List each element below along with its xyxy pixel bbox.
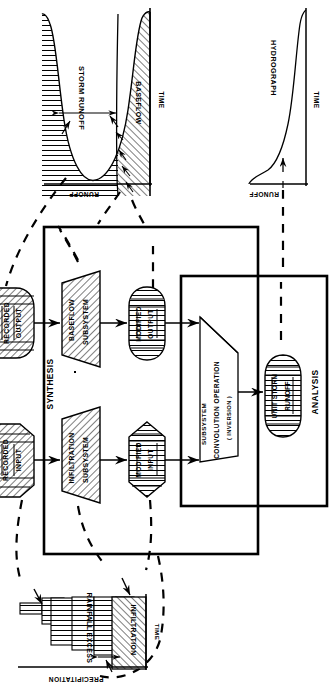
precipitation-hyetograph-chart: RAINFALL EXCESS INFILTRATION TIME PRECIP… [18, 578, 161, 683]
modified-input-label-2: INPUT [147, 449, 154, 471]
node-modified-output[interactable]: MODIFIED OUTPUT [129, 287, 165, 360]
node-modified-input[interactable]: MODIFIED INPUT [129, 422, 165, 497]
modified-input-label-1: MODIFIED [135, 442, 142, 477]
recorded-input-label-2: INPUT [15, 448, 22, 471]
unit-storm-runoff-label-1: UNIT STORM [271, 373, 278, 418]
convolution-label-2: CONVOLUTION OPERATION [213, 361, 220, 459]
convolution-label-3: ( INVERSION ) [226, 396, 232, 440]
infiltration-region-label: INFILTRATION [130, 605, 137, 656]
time-axis-label-bottom: TIME [154, 624, 161, 640]
recorded-output-label-1: RECORDED [3, 302, 10, 344]
node-unit-storm-runoff[interactable]: UNIT STORM RUNOFF [265, 355, 301, 437]
figure-canvas: STORM RUNOFF BASEFLOW TIME RUNOFF HYDROG… [0, 0, 333, 696]
time-axis-label-top-right: TIME [313, 92, 320, 109]
node-convolution-operation[interactable]: SUBSYSTEM CONVOLUTION OPERATION ( INVERS… [200, 317, 238, 462]
modified-output-label-2: OUTPUT [147, 309, 154, 339]
recorded-input-label-1: RECORDED [2, 439, 9, 481]
convolution-label-1: SUBSYSTEM [200, 403, 207, 445]
unit-hydrograph-chart: HYDROGRAPH TIME RUNOFF [249, 8, 320, 198]
baseflow-region-label: BASEFLOW [135, 81, 142, 124]
node-infiltration-subsystem[interactable]: INFILTRATION SUBSYSTEM [62, 407, 100, 503]
precipitation-axis-label: PRECIPITATION [48, 676, 103, 683]
baseflow-subsystem-label-1: BASEFLOW [68, 299, 75, 341]
time-axis-label-top-left: TIME [158, 92, 165, 109]
analysis-box-label: ANALYSIS [310, 370, 320, 415]
modified-output-label-1: MODIFIED [135, 306, 142, 341]
infiltration-subsystem-label-1: INFILTRATION [68, 433, 75, 484]
diagram-svg: STORM RUNOFF BASEFLOW TIME RUNOFF HYDROG… [0, 0, 333, 696]
unit-storm-runoff-label-2: RUNOFF [284, 381, 291, 411]
storm-runoff-baseflow-chart: STORM RUNOFF BASEFLOW TIME RUNOFF [40, 8, 165, 200]
infiltration-subsystem-label-2: SUBSYSTEM [82, 437, 89, 483]
node-recorded-input[interactable]: RECORDED INPUT [0, 424, 34, 497]
node-recorded-output[interactable]: RECORDED OUTPUT [0, 288, 34, 358]
runoff-axis-label-top-left: RUNOFF [69, 191, 99, 198]
recorded-output-label-2: OUTPUT [15, 307, 22, 338]
storm-runoff-region-label: STORM RUNOFF [77, 66, 86, 130]
baseflow-subsystem-label-2: SUBSYSTEM [82, 299, 89, 345]
rainfall-excess-label: RAINFALL EXCESS [86, 593, 93, 664]
hydrograph-title: HYDROGRAPH [269, 40, 278, 96]
runoff-axis-label-top-right: RUNOFF [249, 191, 279, 198]
node-baseflow-subsystem[interactable]: BASEFLOW SUBSYSTEM [62, 271, 100, 367]
synthesis-box-label: SYNTHESIS [45, 358, 55, 409]
